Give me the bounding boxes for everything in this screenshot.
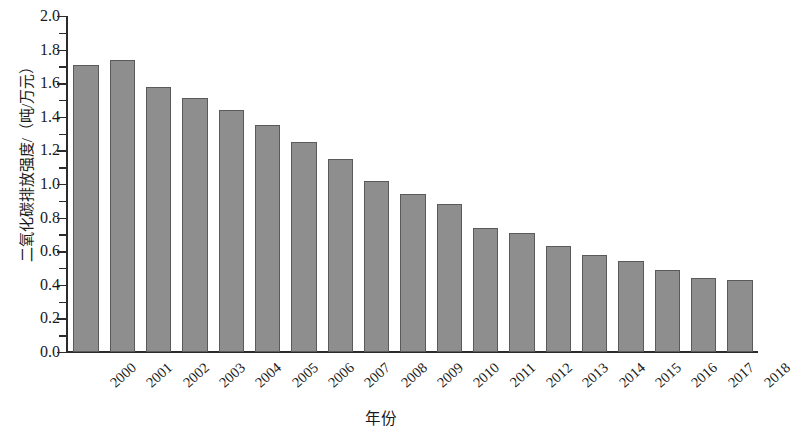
y-tick-label: 1.6 — [18, 75, 60, 91]
y-tick-mark-major — [57, 83, 67, 84]
y-tick-label: 0.0 — [18, 344, 60, 360]
x-tick-label: 2010 — [471, 360, 503, 391]
x-tick-label: 2012 — [543, 360, 575, 391]
x-tick-label: 2003 — [217, 360, 249, 391]
y-tick-mark-minor — [59, 335, 67, 336]
x-tick-label: 2016 — [689, 360, 721, 391]
bar — [437, 204, 462, 352]
x-tick-label: 2004 — [253, 360, 285, 391]
y-tick-label: 0.6 — [18, 243, 60, 259]
y-tick-mark-minor — [59, 234, 67, 235]
x-tick-label: 2001 — [144, 360, 176, 391]
y-tick-mark-major — [57, 16, 67, 17]
y-tick-label: 1.8 — [18, 42, 60, 58]
y-tick-label: 1.4 — [18, 109, 60, 125]
bar — [146, 87, 171, 352]
y-axis-tick-labels: 2.01.81.61.41.21.00.80.60.40.20.0 — [18, 0, 60, 435]
x-tick-label: 2005 — [289, 360, 321, 391]
y-tick-mark-major — [57, 150, 67, 151]
bar — [182, 98, 207, 352]
bar — [328, 159, 353, 352]
y-tick-mark-minor — [59, 33, 67, 34]
x-tick-label: 2007 — [362, 360, 394, 391]
y-tick-mark-minor — [59, 201, 67, 202]
bar — [655, 270, 680, 352]
x-tick-label: 2014 — [616, 360, 648, 391]
y-tick-mark-major — [57, 50, 67, 51]
y-tick-mark-major — [57, 318, 67, 319]
y-tick-mark-major — [57, 352, 67, 353]
y-tick-mark-minor — [59, 302, 67, 303]
y-tick-mark-minor — [59, 100, 67, 101]
bar — [400, 194, 425, 352]
bar — [618, 261, 643, 352]
y-tick-mark-minor — [59, 167, 67, 168]
y-tick-label: 2.0 — [18, 8, 60, 24]
x-tick-label: 2015 — [652, 360, 684, 391]
bar — [473, 228, 498, 352]
x-tick-label: 2008 — [398, 360, 430, 391]
x-tick-label: 2017 — [725, 360, 757, 391]
y-tick-mark-minor — [59, 134, 67, 135]
y-tick-mark-major — [57, 117, 67, 118]
x-tick-label: 2002 — [180, 360, 212, 391]
y-tick-mark-major — [57, 218, 67, 219]
bar — [582, 255, 607, 352]
y-tick-mark-minor — [59, 66, 67, 67]
x-tick-label: 2011 — [507, 360, 538, 390]
x-tick-label: 2000 — [108, 360, 140, 391]
x-axis-tick-labels: 2000200120022003200420052006200720082009… — [68, 352, 758, 412]
x-tick-label: 2006 — [325, 360, 357, 391]
y-tick-label: 0.2 — [18, 310, 60, 326]
y-tick-label: 0.8 — [18, 210, 60, 226]
x-tick-label: 2018 — [761, 360, 793, 391]
bar — [110, 60, 135, 352]
bar — [291, 142, 316, 352]
y-tick-mark-major — [57, 285, 67, 286]
y-tick-mark-major — [57, 251, 67, 252]
bar — [73, 65, 98, 352]
bar — [509, 233, 534, 352]
bar — [691, 278, 716, 352]
plot-area — [68, 16, 758, 352]
x-tick-label: 2009 — [434, 360, 466, 391]
x-tick-label: 2013 — [580, 360, 612, 391]
x-axis-title: 年份 — [0, 406, 762, 428]
y-tick-mark-major — [57, 184, 67, 185]
y-tick-label: 0.4 — [18, 277, 60, 293]
bar — [546, 246, 571, 352]
bar — [364, 181, 389, 352]
bar — [727, 280, 752, 352]
bar — [219, 110, 244, 352]
bar — [255, 125, 280, 352]
y-tick-label: 1.2 — [18, 142, 60, 158]
y-tick-mark-minor — [59, 268, 67, 269]
y-tick-label: 1.0 — [18, 176, 60, 192]
